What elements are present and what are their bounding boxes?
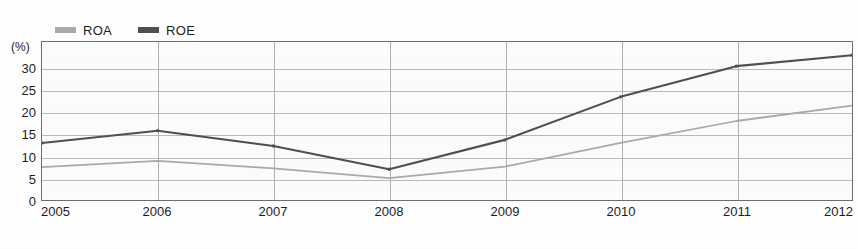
legend-item-roa: ROA <box>55 24 112 37</box>
x-axis: 2005 2006 2007 2008 2009 2010 2011 2012 <box>41 205 853 225</box>
chart-plot-lines <box>42 42 852 200</box>
series-line-roa <box>42 106 852 178</box>
data-point-roe <box>156 129 159 132</box>
legend-swatch-roa <box>55 27 76 33</box>
data-point-roe <box>735 64 738 67</box>
chart-container: ROA ROE (%) 30 25 20 15 10 5 0 <box>0 0 858 249</box>
x-tick-label: 2006 <box>143 205 172 218</box>
y-tick-label: 10 <box>2 150 36 163</box>
y-tick-label: 25 <box>2 83 36 96</box>
data-point-roe <box>619 95 622 98</box>
series-line-roe <box>42 55 852 169</box>
y-tick-label: 20 <box>2 106 36 119</box>
x-tick-label: 2011 <box>723 205 751 218</box>
data-point-roe <box>503 138 506 141</box>
y-tick-label: 5 <box>2 172 36 185</box>
legend-item-roe: ROE <box>138 24 195 37</box>
data-point-roe <box>387 168 390 171</box>
y-tick-label: 30 <box>2 61 36 74</box>
x-tick-label: 2012 <box>824 205 853 218</box>
y-tick-label: 0 <box>2 195 36 208</box>
data-point-roe <box>272 144 275 147</box>
plot-area <box>41 41 853 201</box>
y-tick-label: 15 <box>2 128 36 141</box>
legend-label-roa: ROA <box>83 24 112 37</box>
x-tick-label: 2010 <box>607 205 636 218</box>
legend-swatch-roe <box>138 27 159 33</box>
x-tick-label: 2008 <box>375 205 404 218</box>
x-tick-label: 2009 <box>491 205 520 218</box>
series-markers-roe <box>42 53 852 170</box>
y-axis: 30 25 20 15 10 5 0 <box>0 41 36 201</box>
x-tick-label: 2007 <box>259 205 288 218</box>
legend-label-roe: ROE <box>166 24 195 37</box>
chart-legend: ROA ROE <box>55 20 195 40</box>
x-tick-label: 2005 <box>41 205 70 218</box>
